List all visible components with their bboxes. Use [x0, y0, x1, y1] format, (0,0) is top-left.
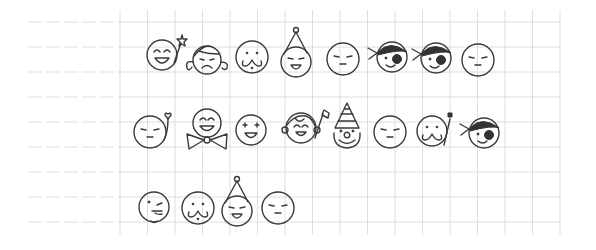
party-hat-grin-face	[281, 28, 311, 78]
party-hat-grin-face	[222, 177, 252, 227]
meh-face	[374, 116, 406, 148]
face-row-1	[147, 28, 494, 78]
pirate-bandana-face	[412, 43, 451, 73]
face-row-2	[134, 103, 499, 149]
sparkle-eyes-face	[236, 115, 266, 145]
curly-hair-sad-face	[187, 46, 228, 74]
doodle-sheet	[0, 0, 596, 250]
grin-star-wand-face	[147, 35, 187, 70]
wink-goatee-face	[139, 192, 169, 223]
pirate-bandana-face	[368, 42, 407, 72]
meh-face	[327, 43, 359, 75]
mustache-face	[236, 41, 268, 73]
meh-face	[462, 44, 494, 76]
boy-flag-face	[282, 110, 329, 143]
pirate-bandana-face	[460, 118, 499, 148]
meh-heart-wand-face	[134, 113, 171, 148]
clown-hat-face	[334, 103, 360, 148]
doodle-faces	[134, 28, 499, 227]
bowtie-grin-face	[187, 109, 227, 149]
face-row-3	[139, 177, 294, 227]
